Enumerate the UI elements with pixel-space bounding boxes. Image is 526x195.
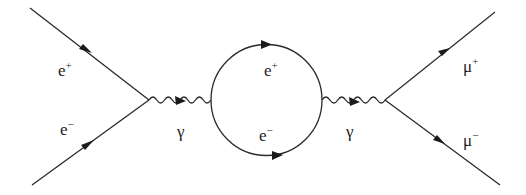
incoming-electron-line	[32, 100, 149, 185]
label-loop-positron: e+	[264, 59, 278, 80]
label-photon-right: γ	[345, 122, 354, 141]
label-incoming-electron: e−	[60, 118, 74, 139]
arrow-icon	[261, 40, 272, 49]
outgoing-antimuon-line	[385, 12, 495, 100]
label-outgoing-antimuon: μ+	[463, 55, 478, 76]
incoming-positron-line	[30, 8, 149, 100]
outgoing-muon-line	[385, 100, 500, 185]
label-photon-left: γ	[176, 122, 185, 141]
label-incoming-positron: e+	[58, 59, 72, 80]
feynman-diagram: e+ e− γ γ e+ e− μ+ μ−	[0, 0, 526, 195]
arrow-icon	[438, 48, 450, 56]
label-outgoing-muon: μ−	[463, 129, 478, 150]
label-loop-electron: e−	[259, 124, 273, 145]
arrow-icon	[272, 151, 283, 160]
